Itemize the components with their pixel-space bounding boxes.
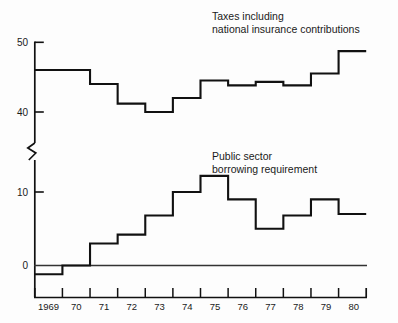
x-tick-label-70: 70: [71, 301, 82, 312]
y-tick-label-0: 0: [22, 260, 28, 271]
chart-figure: 50 40 10 0 1969 70 71 72 73 74 75 76 77 …: [0, 0, 398, 323]
x-tick-label-79: 79: [321, 301, 332, 312]
x-tick-label-80: 80: [348, 301, 359, 312]
x-tick-label-72: 72: [126, 301, 137, 312]
x-tick-label-71: 71: [99, 301, 110, 312]
x-tick-label-76: 76: [237, 301, 248, 312]
x-tick-label-1969: 1969: [38, 301, 59, 312]
y-tick-label-10: 10: [17, 187, 29, 198]
x-tick-label-75: 75: [210, 301, 221, 312]
chart-canvas: 50 40 10 0 1969 70 71 72 73 74 75 76 77 …: [0, 0, 398, 323]
annotation-taxes-line2: national insurance contributions: [212, 23, 360, 35]
y-tick-label-40: 40: [17, 107, 29, 118]
annotation-taxes-line1: Taxes including: [212, 10, 284, 22]
x-tick-label-78: 78: [293, 301, 304, 312]
x-tick-label-74: 74: [182, 301, 193, 312]
annotation-psbr-line2: borrowing requirement: [212, 163, 317, 175]
x-tick-label-73: 73: [154, 301, 165, 312]
x-tick-label-77: 77: [265, 301, 276, 312]
y-tick-label-50: 50: [17, 37, 29, 48]
annotation-psbr-line1: Public sector: [212, 150, 273, 162]
